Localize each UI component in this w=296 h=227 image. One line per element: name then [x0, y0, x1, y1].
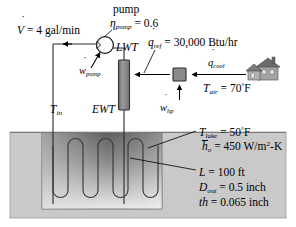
w-hp-label: ̇whp	[160, 102, 174, 113]
heat-exchanger	[119, 60, 130, 110]
t-lake-value: 50	[230, 126, 242, 138]
h-outer-label: ho = 450 W/m2-K	[202, 140, 282, 152]
t-lake-unit: F	[244, 126, 250, 138]
w-pump-subscript: pump	[86, 70, 100, 77]
eta-symbol: η	[110, 17, 116, 29]
degree-symbol: °	[241, 126, 244, 134]
equals-sign: =	[220, 126, 227, 138]
equals-sign: =	[221, 82, 228, 94]
h-outer-units: W/m	[243, 140, 266, 152]
q-ref-label: ̇qref = 30,000 Btu/hr	[148, 36, 238, 48]
w-hp-symbol: w	[160, 102, 167, 113]
degree-symbol: °	[241, 82, 244, 90]
volume-flow-symbol: V	[17, 24, 24, 36]
volume-flow-value: 4	[36, 24, 42, 36]
t-in-subscript: in	[56, 109, 62, 117]
h-outer-symbol: h	[202, 140, 208, 152]
pump-title-label: pump	[113, 3, 139, 15]
pump-symbol	[97, 37, 114, 54]
w-hp-subscript: hp	[167, 107, 174, 114]
equals-sign: =	[134, 17, 141, 29]
q-ref-units: Btu/hr	[208, 36, 237, 48]
equals-sign: =	[214, 140, 221, 152]
lwt-label: LWT	[116, 41, 138, 53]
ewt-label: EWT	[92, 103, 115, 115]
schematic-figure: ̇V = 4 gal/min pump ηpump = 0.6 LWT ̇qre…	[0, 0, 296, 227]
diameter-value: 0.5	[229, 181, 243, 193]
t-in-label: Tin	[50, 103, 62, 115]
equals-sign: =	[164, 36, 171, 48]
q-ref-value: 30,000	[174, 36, 206, 48]
w-pump-label: ̇wpump	[79, 65, 100, 76]
volume-flow-units: gal/min	[45, 24, 80, 36]
volume-flow-label: ̇V = 4 gal/min	[17, 24, 80, 36]
t-air-unit: F	[244, 82, 250, 94]
length-units: ft	[238, 166, 245, 178]
h-outer-subscript: o	[208, 146, 212, 154]
h-outer-units-tail: -K	[270, 140, 282, 152]
thickness-value: 0.065	[220, 196, 246, 208]
t-lake-subscript: lake	[205, 132, 217, 140]
t-air-value: 70	[230, 82, 242, 94]
q-cool-subscript: cool	[213, 62, 224, 69]
equals-sign: =	[219, 181, 226, 193]
q-ref-symbol: q	[148, 36, 154, 48]
h-outer-value: 450	[224, 140, 241, 152]
diameter-units: inch	[246, 181, 266, 193]
bar-accent	[202, 140, 207, 141]
thickness-symbol: th	[199, 196, 208, 208]
length-value: 100	[218, 166, 235, 178]
house-icon	[246, 57, 280, 80]
w-pump-symbol: w	[79, 65, 86, 76]
q-ref-subscript: ref	[154, 42, 162, 50]
pump-efficiency-label: ηpump = 0.6	[110, 17, 158, 29]
length-symbol: L	[199, 166, 205, 178]
thickness-units: inch	[249, 196, 269, 208]
eta-subscript: pump	[116, 23, 132, 31]
q-cool-label: ̇qcool	[208, 57, 224, 68]
equals-sign: =	[208, 166, 215, 178]
h-outer-exponent: 2	[266, 140, 270, 148]
pipe-length-label: L = 100 ft	[199, 166, 245, 178]
equals-sign: =	[27, 24, 34, 36]
t-air-subscript: air	[209, 88, 217, 96]
t-lake-label: Tlake = 50°F	[199, 126, 250, 138]
equals-sign: =	[211, 196, 218, 208]
diameter-subscript: out	[207, 187, 216, 195]
pipe-diameter-label: Dout = 0.5 inch	[199, 181, 266, 193]
t-air-label: Tair = 70°F	[203, 82, 251, 94]
heat-pump-box	[173, 68, 186, 81]
pipe-thickness-label: th = 0.065 inch	[199, 196, 269, 208]
pump-efficiency-value: 0.6	[144, 17, 158, 29]
